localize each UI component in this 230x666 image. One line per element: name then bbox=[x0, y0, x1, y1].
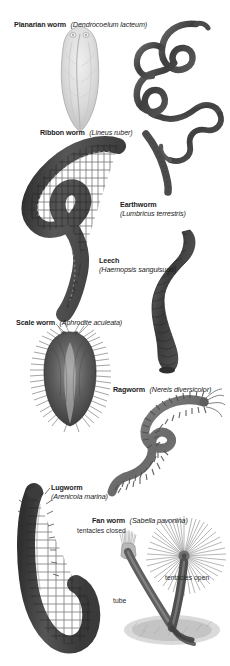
label-scientific-name: (Dendrocoelum lacteum) bbox=[71, 20, 148, 29]
label-scientific-name: (Aphrodite aculeata) bbox=[59, 318, 122, 327]
label-common-name: Fan worm bbox=[92, 516, 125, 525]
label-scale-worm: Scale worm (Aphrodite aculeata) bbox=[16, 310, 122, 330]
label-lugworm: Lugworm (Arenicola marina) bbox=[51, 483, 108, 501]
label-common-name: Earthworm bbox=[120, 200, 186, 209]
label-common-name: Leech bbox=[99, 256, 176, 265]
label-common-name: Lugworm bbox=[51, 483, 108, 492]
annotation-tube: tube bbox=[113, 597, 126, 604]
label-common-name: Ragworm bbox=[113, 385, 145, 394]
label-scientific-name: (Arenicola marina) bbox=[51, 492, 108, 501]
annotation-tentacles-open: tentacles open bbox=[165, 574, 209, 581]
figure-scale-worm bbox=[28, 322, 112, 438]
figure-earthworm-tail bbox=[140, 132, 186, 194]
label-scientific-name: (Lineus ruber) bbox=[89, 128, 132, 137]
label-common-name: Planarian worm bbox=[14, 20, 66, 29]
label-scientific-name: (Nereis diversicolor) bbox=[150, 385, 212, 394]
label-scientific-name: (Haemopsis sanguisuga) bbox=[99, 265, 176, 274]
worm-illustration-plate: Planarian worm (Dendrocoelum lacteum) Ri… bbox=[0, 0, 230, 666]
label-common-name: Scale worm bbox=[16, 318, 55, 327]
annotation-tentacles-closed: tentacles closed bbox=[77, 527, 126, 534]
figure-lugworm bbox=[18, 486, 100, 656]
label-common-name: Ribbon worm bbox=[40, 128, 85, 137]
label-scientific-name: (Lumbricus terrestris) bbox=[120, 209, 186, 218]
figure-fan-worm bbox=[110, 512, 230, 654]
label-planarian-worm: Planarian worm (Dendrocoelum lacteum) bbox=[14, 12, 147, 32]
label-earthworm: Earthworm (Lumbricus terrestris) bbox=[120, 200, 186, 218]
figure-earthworm bbox=[14, 140, 140, 318]
figure-leech bbox=[142, 226, 218, 374]
label-ribbon-worm: Ribbon worm (Lineus ruber) bbox=[40, 120, 133, 140]
label-ragworm: Ragworm (Nereis diversicolor) bbox=[113, 377, 211, 397]
label-scientific-name: (Sabella pavonina) bbox=[130, 516, 188, 525]
figure-ragworm bbox=[108, 388, 226, 498]
label-leech: Leech (Haemopsis sanguisuga) bbox=[99, 256, 176, 274]
label-fan-worm: Fan worm (Sabella pavonina) bbox=[92, 508, 188, 528]
figure-planarian-worm bbox=[52, 24, 108, 134]
